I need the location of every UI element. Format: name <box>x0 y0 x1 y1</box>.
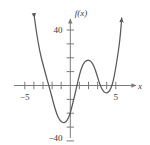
x-axis-label: x <box>137 81 142 91</box>
y-tick-label-40: 40 <box>54 25 64 35</box>
y-tick-label-neg40: −40 <box>48 133 63 143</box>
curve-left-branch <box>34 18 70 123</box>
function-curve <box>34 18 121 123</box>
y-axis-label: f(x) <box>75 8 88 18</box>
function-graph-figure: −5 5 x 40 −40 f(x) <box>0 0 150 145</box>
x-tick-label-neg5: −5 <box>20 92 30 102</box>
x-axis: −5 5 x <box>14 81 142 102</box>
y-axis: 40 −40 f(x) <box>48 8 87 143</box>
x-tick-label-5: 5 <box>114 92 119 102</box>
plot-canvas: −5 5 x 40 −40 f(x) <box>0 0 150 145</box>
